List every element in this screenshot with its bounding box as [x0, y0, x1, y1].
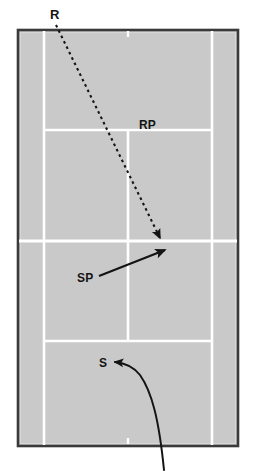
tennis-court-diagram: R RP SP S: [0, 0, 254, 471]
court-graphic: [0, 0, 254, 471]
label-receiver: R: [50, 8, 60, 21]
label-server: S: [99, 357, 107, 369]
label-receiver-position: RP: [139, 119, 156, 131]
label-serve-path: SP: [77, 272, 93, 284]
